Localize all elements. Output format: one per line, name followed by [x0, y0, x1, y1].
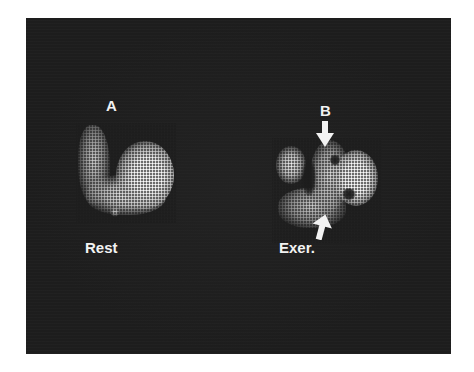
rest-scan-apex — [110, 207, 120, 217]
exercise-scan-lateral-region — [334, 150, 378, 206]
exercise-scan-defect-upper — [330, 154, 340, 166]
rest-caption: Rest — [85, 240, 118, 255]
exercise-scan-defect-lower — [342, 188, 356, 200]
exercise-scan-defect-central — [302, 158, 316, 196]
exer-caption: Exer. — [279, 240, 315, 255]
panel-b-label: B — [320, 103, 331, 118]
arrow-down-icon — [316, 121, 334, 147]
rest-scan-image — [76, 123, 176, 223]
scintigraphy-photo: A Rest B Exer. — [26, 18, 451, 354]
panel-a-label: A — [106, 98, 117, 113]
rest-scan-lateral-region — [116, 141, 174, 209]
arrow-up-icon — [312, 214, 332, 240]
